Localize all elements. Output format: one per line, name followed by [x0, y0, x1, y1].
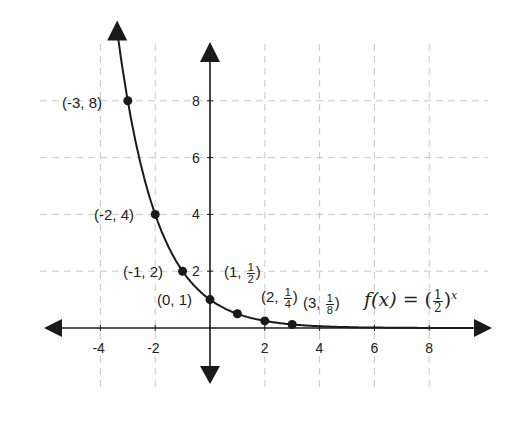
x-axis-left-arrow-icon [44, 319, 62, 337]
function-label: f(x) = (12)x [364, 288, 457, 314]
y-tick-label: 2 [192, 264, 200, 278]
exponent: x [451, 289, 457, 302]
point-label: (3, 18) [303, 293, 340, 316]
data-point [178, 267, 187, 276]
point-label: (-2, 4) [94, 207, 134, 222]
point-label: (-3, 8) [62, 95, 102, 110]
function-name: f(x) [364, 288, 397, 310]
point-label: (2, 14) [261, 287, 298, 310]
data-point [260, 316, 269, 325]
point-label: (-1, 2) [123, 264, 163, 279]
equals-sign: = [403, 288, 419, 310]
x-tick-label: -2 [147, 341, 159, 355]
data-point [123, 96, 132, 105]
y-tick-label: 8 [192, 94, 200, 108]
x-tick-label: 4 [316, 341, 324, 355]
data-point [288, 320, 297, 329]
x-tick-label: 6 [370, 341, 378, 355]
data-point [151, 210, 160, 219]
base-fraction: 12 [433, 289, 443, 314]
point-label: (0, 1) [157, 292, 192, 307]
data-point [233, 309, 242, 318]
x-tick-label: 8 [425, 341, 433, 355]
x-tick-label: 2 [261, 341, 269, 355]
y-axis-up-arrow-icon [200, 42, 220, 62]
y-tick-label: 4 [192, 207, 200, 221]
data-point [206, 295, 215, 304]
function-curve [118, 38, 473, 328]
x-tick-label: -4 [92, 341, 104, 355]
y-axis-down-arrow-icon [200, 366, 220, 384]
curve-arrow-icon [107, 20, 127, 40]
point-label: (1, 12) [224, 262, 261, 285]
exponential-chart [0, 0, 514, 427]
x-axis-right-arrow-icon [474, 319, 492, 337]
y-tick-label: 6 [192, 151, 200, 165]
data-points [107, 20, 296, 329]
